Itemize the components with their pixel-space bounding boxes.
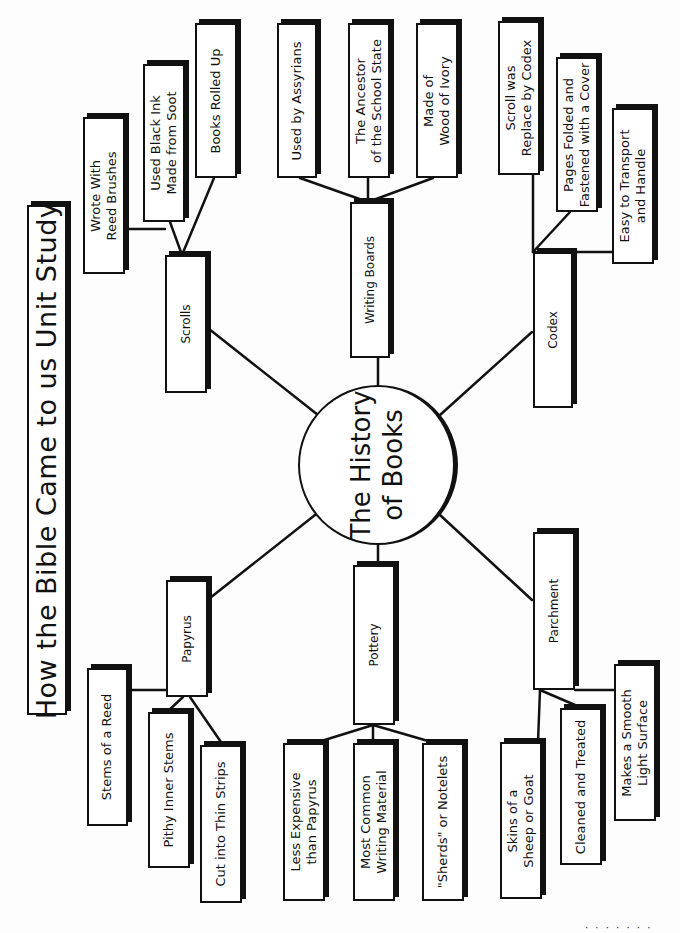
node-writing-boards-label: Writing Boards bbox=[362, 236, 378, 324]
fact-papyrus-3: Cut into Thin Strips bbox=[200, 745, 242, 903]
title-banner: How the Bible Came to us Unit Study bbox=[27, 205, 67, 715]
fact-scrolls-1: Wrote With Reed Brushes bbox=[83, 117, 125, 274]
node-scrolls: Scrolls bbox=[165, 255, 207, 393]
node-parchment-label: Parchment bbox=[546, 579, 562, 643]
fact-text: "Sherds" or Notelets bbox=[435, 756, 451, 888]
fact-text: Scroll was Replace by Codex bbox=[503, 40, 535, 156]
node-writing-boards: Writing Boards bbox=[350, 202, 390, 358]
node-codex: Codex bbox=[533, 252, 573, 408]
center-node: The History of Books bbox=[298, 385, 458, 545]
fact-text: Pithy Inner Stems bbox=[161, 733, 177, 848]
fact-text: Used Black Ink Made from Soot bbox=[148, 91, 180, 194]
page-title: How the Bible Came to us Unit Study bbox=[32, 201, 63, 719]
center-label: The History of Books bbox=[345, 390, 409, 539]
fact-codex-1: Scroll was Replace by Codex bbox=[498, 21, 540, 175]
fact-codex-2: Pages Folded and Fastened with a Cover bbox=[556, 57, 598, 212]
mind-map-page: How the Bible Came to us Unit Study The … bbox=[0, 0, 680, 933]
node-pottery-label: Pottery bbox=[366, 624, 382, 667]
fact-text: The Ancestor of the School State bbox=[353, 39, 385, 163]
fact-text: Most Common Writing Material bbox=[358, 770, 390, 873]
fact-parchment-2: Cleaned and Treated bbox=[560, 708, 602, 865]
fact-papyrus-2: Pithy Inner Stems bbox=[148, 712, 190, 868]
fact-text: Pages Folded and Fastened with a Cover bbox=[561, 62, 593, 207]
node-papyrus-label: Papyrus bbox=[179, 615, 195, 663]
fact-text: Easy to Transport and Handle bbox=[617, 130, 649, 243]
fact-codex-3: Easy to Transport and Handle bbox=[612, 108, 654, 264]
fact-parchment-3: Makes a Smooth Light Surface bbox=[614, 664, 656, 821]
fact-text: Less Expensive than Papyrus bbox=[288, 772, 320, 871]
fact-text: Makes a Smooth Light Surface bbox=[619, 689, 651, 796]
fact-papyrus-1: Stems of a Reed bbox=[87, 668, 128, 826]
fact-text: Made of Wood of Ivory bbox=[421, 56, 453, 146]
fact-writing-boards-3: Made of Wood of Ivory bbox=[416, 23, 458, 178]
fact-text: Books Rolled Up bbox=[208, 48, 224, 153]
fact-pottery-3: "Sherds" or Notelets bbox=[422, 743, 464, 901]
fact-writing-boards-2: The Ancestor of the School State bbox=[348, 23, 390, 178]
node-parchment: Parchment bbox=[533, 532, 575, 690]
fact-writing-boards-1: Used by Assyrians bbox=[277, 23, 317, 178]
fact-scrolls-3: Books Rolled Up bbox=[195, 23, 237, 178]
fact-pottery-2: Most Common Writing Material bbox=[353, 743, 395, 901]
footer-credit: · · · · · · · bbox=[585, 922, 652, 933]
node-scrolls-label: Scrolls bbox=[178, 304, 194, 343]
fact-parchment-1: Skins of a Sheep or Goat bbox=[500, 742, 542, 899]
node-codex-label: Codex bbox=[545, 311, 561, 349]
fact-scrolls-2: Used Black Ink Made from Soot bbox=[143, 64, 185, 222]
fact-text: Used by Assyrians bbox=[289, 41, 305, 160]
fact-text: Wrote With Reed Brushes bbox=[88, 151, 120, 240]
node-pottery: Pottery bbox=[353, 565, 395, 725]
fact-text: Stems of a Reed bbox=[100, 694, 116, 800]
node-papyrus: Papyrus bbox=[166, 580, 208, 697]
fact-text: Cut into Thin Strips bbox=[213, 761, 229, 886]
fact-text: Cleaned and Treated bbox=[573, 719, 589, 853]
fact-pottery-1: Less Expensive than Papyrus bbox=[283, 743, 325, 901]
fact-text: Skins of a Sheep or Goat bbox=[505, 774, 537, 867]
